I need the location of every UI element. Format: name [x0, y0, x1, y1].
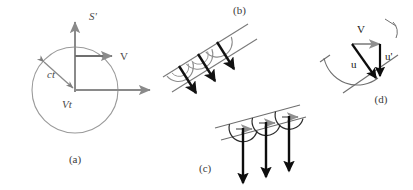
label-vt: Vt: [62, 98, 73, 110]
ray-arrows-c: [243, 116, 289, 183]
caption-panel-b: (b): [233, 4, 246, 17]
label-velocity-v: V: [120, 50, 128, 62]
label-u-d: u: [351, 58, 357, 70]
panel-b: (b): [163, 4, 257, 93]
caption-panel-d: (d): [375, 93, 388, 106]
label-ct: ct: [47, 68, 56, 80]
huygens-arc: [186, 49, 212, 69]
caption-panel-c: (c): [199, 162, 212, 175]
panel-c: (c): [199, 105, 306, 183]
physics-figure: S' V ct Vt (a): [0, 0, 413, 190]
wavefront-line-upper-b: [163, 24, 248, 77]
panel-a: S' V ct Vt (a): [32, 10, 150, 166]
wavefront-line-lower-b: [172, 39, 257, 92]
angle-tick-line-d: [385, 19, 396, 26]
panel-d: V u u' (d): [320, 19, 398, 106]
label-velocity-v-d: V: [357, 23, 365, 35]
caption-panel-a: (a): [69, 153, 82, 166]
figure-canvas: S' V ct Vt (a): [0, 0, 413, 190]
label-u-prime-d: u': [385, 50, 393, 62]
label-s-prime: S': [89, 10, 98, 22]
